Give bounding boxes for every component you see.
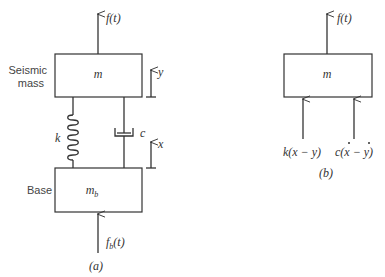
damper-force-arrow: c(x − y) (335, 99, 373, 159)
seismic-mass-symbol: m (94, 67, 103, 81)
diagram-canvas: f(t) m Seismic mass y k c (0, 0, 385, 277)
damper-force-label: c(x − y) (335, 145, 373, 159)
spring-label: k (55, 131, 61, 145)
damper-c: c (115, 97, 146, 168)
caption-b: (b) (319, 166, 333, 180)
y-dot (368, 142, 370, 144)
damper-label: c (140, 126, 146, 140)
displacement-label-x: x (157, 137, 164, 151)
figure-b: f(t) m k(x − y) c(x − y) (b) (283, 11, 373, 180)
force-arrow-top-b: f(t) (327, 11, 352, 54)
base-label: Base (27, 184, 52, 196)
x-dot (348, 142, 350, 144)
figure-a: f(t) m Seismic mass y k c (8, 11, 164, 273)
seismic-label-line2: mass (18, 77, 45, 89)
displacement-arrow-y: y (146, 65, 164, 97)
spring-force-arrow: k(x − y) (283, 99, 321, 159)
force-top-label-a: f(t) (106, 11, 121, 25)
force-top-label-b: f(t) (337, 11, 352, 25)
spring-force-label: k(x − y) (283, 145, 321, 159)
caption-a: (a) (89, 259, 103, 273)
force-arrow-top-a: f(t) (98, 11, 121, 54)
displacement-arrow-x: x (146, 137, 164, 168)
displacement-label-y: y (157, 65, 164, 79)
spring-k: k (55, 97, 78, 168)
base-force-label: fb(t) (106, 235, 125, 251)
force-arrow-bottom-a: fb(t) (98, 214, 125, 253)
free-body-mass-symbol: m (323, 67, 332, 81)
base-mass-box (55, 168, 142, 212)
seismic-label-line1: Seismic (8, 64, 47, 76)
